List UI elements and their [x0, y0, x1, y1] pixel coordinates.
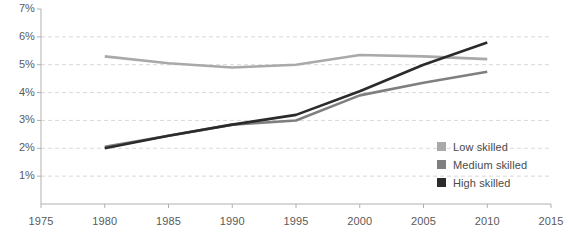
- x-axis-tick-label: 2000: [337, 215, 383, 227]
- legend-label: High skilled: [453, 177, 510, 189]
- chart-legend: Low skilledMedium skilledHigh skilled: [437, 138, 527, 192]
- legend-swatch-icon: [437, 178, 446, 187]
- x-axis-tick-label: 1980: [82, 215, 128, 227]
- x-axis-tick-label: 1995: [273, 215, 319, 227]
- y-axis-tick-label: 2%: [5, 141, 35, 153]
- plot-area: [0, 0, 568, 242]
- x-axis-tick-label: 1990: [209, 215, 255, 227]
- y-axis-tick-label: 6%: [5, 30, 35, 42]
- y-axis-tick-label: 4%: [5, 86, 35, 98]
- x-axis-tick-label: 2015: [528, 215, 568, 227]
- legend-swatch-icon: [437, 142, 446, 151]
- x-axis-tick-label: 1985: [146, 215, 192, 227]
- x-axis-tick-label: 1975: [18, 215, 64, 227]
- series-line-medium-skilled: [105, 72, 488, 147]
- legend-item[interactable]: High skilled: [437, 174, 527, 191]
- line-chart: 1%2%3%4%5%6%7% 1975198019851990199520002…: [0, 0, 568, 242]
- y-axis-tick-label: 3%: [5, 113, 35, 125]
- y-axis-tick-label: 7%: [5, 2, 35, 14]
- x-axis-tick-label: 2005: [401, 215, 447, 227]
- y-axis-tick-label: 1%: [5, 169, 35, 181]
- legend-item[interactable]: Medium skilled: [437, 156, 527, 173]
- legend-label: Low skilled: [453, 141, 508, 153]
- legend-label: Medium skilled: [453, 159, 527, 171]
- series-line-high-skilled: [105, 42, 488, 148]
- x-axis-tick-label: 2010: [464, 215, 510, 227]
- y-axis-tick-label: 5%: [5, 58, 35, 70]
- legend-item[interactable]: Low skilled: [437, 138, 527, 155]
- legend-swatch-icon: [437, 160, 446, 169]
